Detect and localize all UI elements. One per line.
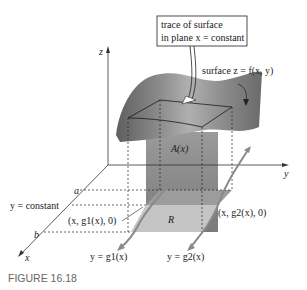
callout-line1: trace of surface xyxy=(161,19,223,30)
b-label: b xyxy=(34,229,39,240)
a-label: a xyxy=(74,185,79,196)
y-axis-label: y xyxy=(283,168,289,179)
z-axis-arrow-icon xyxy=(106,46,110,53)
point1-label: (x, g1(x), 0) xyxy=(68,215,116,227)
area-label: A(x) xyxy=(170,143,189,155)
surface-label: surface z = f(x, y) xyxy=(202,65,273,77)
curve2-top-arrow-icon xyxy=(244,146,251,153)
diagram-canvas: trace of surface in plane x = constant s… xyxy=(0,0,307,290)
x-axis-label: x xyxy=(24,252,30,263)
region-label: R xyxy=(167,214,174,225)
surface xyxy=(116,72,262,142)
curve1-label: y = g1(x) xyxy=(90,251,127,263)
y-axis-arrow-icon xyxy=(282,163,289,167)
z-axis-label: z xyxy=(98,46,103,57)
callout-line2: in plane x = constant xyxy=(161,32,245,43)
x-axis-arrow-icon xyxy=(18,250,24,257)
curve2-label: y = g2(x) xyxy=(167,251,204,263)
figure-caption: FIGURE 16.18 xyxy=(8,272,77,284)
point2-label: (x, g2(x), 0) xyxy=(218,207,266,219)
y-constant-label: y = constant xyxy=(10,200,59,211)
